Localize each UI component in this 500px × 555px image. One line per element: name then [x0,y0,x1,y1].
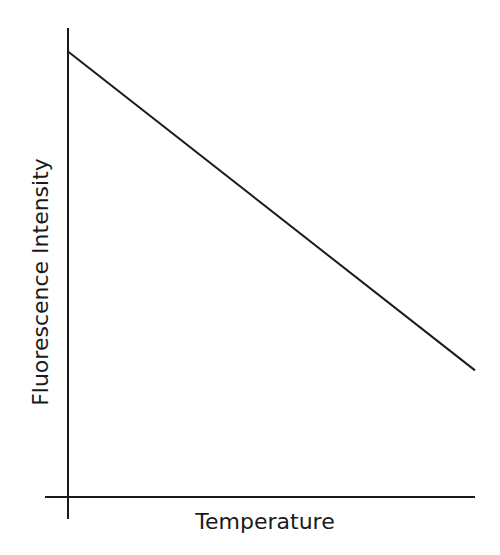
data-line [68,52,475,371]
line-chart: Temperature Fluorescence Intensity [0,0,500,555]
y-axis-label: Fluorescence Intensity [28,158,53,406]
x-axis-label: Temperature [194,509,334,534]
